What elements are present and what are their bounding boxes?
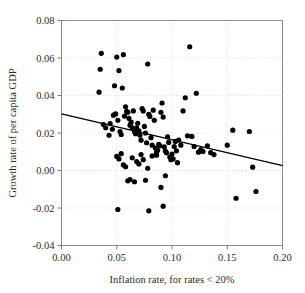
data-point [130,155,135,160]
x-tick-label: 0.20 [273,252,291,263]
data-point [164,150,169,155]
data-point [132,179,137,184]
data-point [159,100,164,105]
x-tick-label: 0.05 [108,252,126,263]
data-point [169,151,174,156]
data-point [142,124,147,129]
x-tick-labels: 0.000.050.100.150.20 [52,252,291,263]
data-point [143,178,148,183]
data-point [178,143,183,148]
x-tick-label: 0.10 [163,252,181,263]
data-point [158,110,163,115]
data-point [225,143,230,148]
data-point [113,111,118,116]
y-tick-label: 0.02 [36,128,54,139]
data-point [135,121,140,126]
scatter-plot-figure: 0.000.050.100.150.20 -0.04-0.020.000.020… [0,0,305,293]
data-point [114,54,119,59]
scatter-plot-canvas: 0.000.050.100.150.20 -0.04-0.020.000.020… [0,0,305,293]
data-point [157,143,162,148]
data-point [250,165,255,170]
data-point [141,157,146,162]
data-point [110,127,115,132]
data-point [115,118,120,123]
data-point [144,140,149,145]
y-tick-label: -0.04 [33,240,56,251]
data-point [99,51,104,56]
y-axis-title: Growth rate of per capita GDP [7,68,18,197]
data-point [145,61,150,66]
data-point [200,149,205,154]
data-point [152,118,157,123]
data-point [194,91,199,96]
data-point [180,108,185,113]
data-point [116,68,121,73]
x-tick-label: 0.15 [218,252,236,263]
data-point [121,52,126,57]
data-point [119,151,124,156]
data-point [145,166,150,171]
data-point [120,85,125,90]
data-point [112,83,117,88]
y-tick-label: 0.00 [36,165,54,176]
data-point [98,67,103,72]
data-point [154,153,159,158]
data-point [106,133,111,138]
data-point [174,148,179,153]
y-tick-label: 0.06 [36,53,54,64]
data-point [123,104,128,109]
y-tick-marks [58,21,62,246]
data-point [151,108,156,113]
x-tick-label: 0.00 [52,252,70,263]
data-point [166,140,171,145]
data-point [146,208,151,213]
data-point [122,114,127,119]
data-point [189,134,194,139]
y-tick-labels: -0.04-0.020.000.020.040.060.08 [33,15,56,251]
data-point [123,164,128,169]
data-point [171,156,176,161]
y-tick-label: 0.04 [36,90,55,101]
x-tick-marks [62,246,283,250]
data-point [247,129,252,134]
data-point [138,138,143,143]
data-point [131,108,136,113]
data-point [129,120,134,125]
data-points-group [96,44,258,213]
data-point [147,114,152,119]
data-point [155,148,160,153]
data-point [161,114,166,119]
data-point [150,153,155,158]
data-point [127,177,132,182]
data-point [175,160,180,165]
x-axis-title: Inflation rate, for rates < 20% [110,274,235,285]
data-point [163,173,168,178]
data-point [253,189,258,194]
data-point [183,95,188,100]
data-point [233,196,238,201]
data-point [185,133,190,138]
y-tick-label: -0.02 [33,203,55,214]
y-tick-label: 0.08 [36,15,54,26]
data-point [124,109,129,114]
data-point [116,156,121,161]
data-point [161,204,166,209]
data-point [96,90,101,95]
data-point [230,128,235,133]
data-point [136,161,141,166]
data-point [187,44,192,49]
data-point [138,152,143,157]
data-point [158,185,163,190]
data-point [115,207,120,212]
data-point [119,132,124,137]
data-point [211,152,216,157]
data-point [141,108,146,113]
